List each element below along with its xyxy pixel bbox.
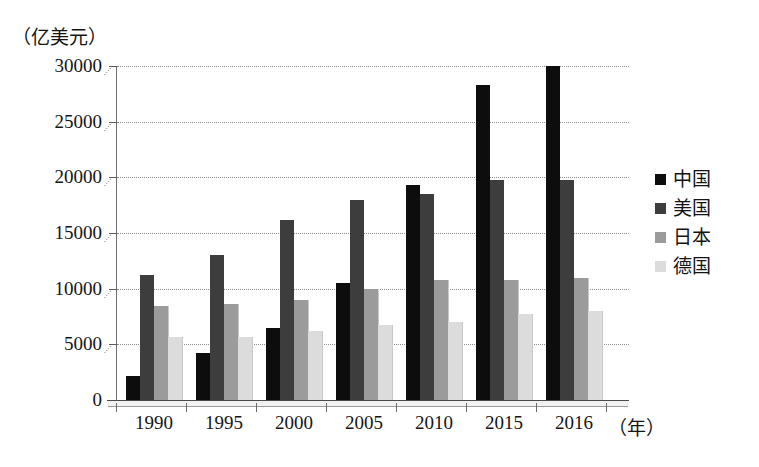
x-axis-tick: [606, 403, 607, 412]
legend-label: 日本: [673, 228, 711, 247]
legend-item-日本[interactable]: 日本: [655, 223, 755, 252]
x-axis-tick: [256, 403, 257, 412]
bar-德国-2000: [308, 331, 323, 400]
x-axis-tick: [186, 403, 187, 412]
bar-美国-2005: [350, 200, 364, 400]
x-axis-tick-label-2015: 2015: [469, 412, 539, 433]
x-axis-tick: [536, 403, 537, 412]
bar-美国-2010: [420, 194, 434, 400]
x-axis-tick-label-1995: 1995: [189, 412, 259, 433]
y-axis-tick-label: 30000: [0, 56, 102, 75]
x-axis-tick-label-1990: 1990: [119, 412, 189, 433]
legend-swatch-icon: [655, 203, 666, 214]
y-axis-tick-label: 0: [0, 390, 102, 409]
bar-group-2005: [336, 66, 392, 400]
y-axis-tick-label: 5000: [0, 334, 102, 353]
x-axis-tick: [116, 403, 117, 412]
bar-chart: （亿美元） 050001000015000200002500030000 199…: [0, 0, 759, 467]
legend-swatch-icon: [655, 174, 666, 185]
bar-中国-2016: [546, 66, 560, 400]
bar-group-2015: [476, 66, 532, 400]
x-axis-tick-label-2010: 2010: [399, 412, 469, 433]
legend-item-美国[interactable]: 美国: [655, 194, 755, 223]
y-axis-tick-label: 20000: [0, 167, 102, 186]
legend-item-德国[interactable]: 德国: [655, 252, 755, 281]
legend-item-中国[interactable]: 中国: [655, 165, 755, 194]
chart-legend: 中国美国日本德国: [655, 165, 755, 281]
bar-日本-1990: [154, 306, 169, 400]
bar-中国-2005: [336, 283, 350, 400]
bar-德国-2010: [448, 322, 463, 400]
bar-美国-2015: [490, 180, 504, 400]
legend-label: 中国: [673, 170, 711, 189]
y-axis-unit-label: （亿美元）: [12, 22, 107, 49]
x-axis-unit-label: （年）: [608, 413, 665, 440]
bar-美国-1990: [140, 275, 154, 400]
bar-德国-1990: [168, 337, 183, 400]
legend-swatch-icon: [655, 261, 666, 272]
bar-德国-1995: [238, 337, 253, 400]
x-axis-tick-label-2016: 2016: [539, 412, 609, 433]
x-axis-line: [107, 400, 629, 401]
bar-美国-1995: [210, 255, 224, 400]
bar-中国-2015: [476, 85, 490, 400]
bar-中国-1990: [126, 376, 140, 400]
bar-美国-2000: [280, 220, 294, 400]
bar-日本-2010: [434, 280, 449, 400]
bar-中国-1995: [196, 353, 210, 400]
bar-中国-2000: [266, 328, 280, 400]
legend-swatch-icon: [655, 232, 666, 243]
legend-label: 美国: [673, 199, 711, 218]
x-axis-tick: [466, 403, 467, 412]
bar-中国-2010: [406, 185, 420, 400]
bar-德国-2016: [588, 311, 603, 400]
bar-group-2000: [266, 66, 322, 400]
bar-group-2016: [546, 66, 602, 400]
bar-group-1995: [196, 66, 252, 400]
x-axis-tick-label-2005: 2005: [329, 412, 399, 433]
y-axis-tick-label: 10000: [0, 279, 102, 298]
y-axis-tick-label: 15000: [0, 223, 102, 242]
bar-美国-2016: [560, 180, 574, 400]
bar-日本-2000: [294, 300, 309, 400]
x-axis-tick: [396, 403, 397, 412]
x-axis-tick-label-2000: 2000: [259, 412, 329, 433]
bar-日本-1995: [224, 304, 239, 400]
legend-label: 德国: [673, 257, 711, 276]
plot-area: [116, 60, 636, 406]
x-axis-tick: [326, 403, 327, 412]
bar-日本-2015: [504, 280, 519, 400]
bar-日本-2016: [574, 278, 589, 400]
bar-德国-2015: [518, 314, 533, 400]
y-axis-tick-label: 25000: [0, 112, 102, 131]
bar-group-2010: [406, 66, 462, 400]
bar-group-1990: [126, 66, 182, 400]
bar-德国-2005: [378, 325, 393, 400]
bar-日本-2005: [364, 289, 379, 400]
